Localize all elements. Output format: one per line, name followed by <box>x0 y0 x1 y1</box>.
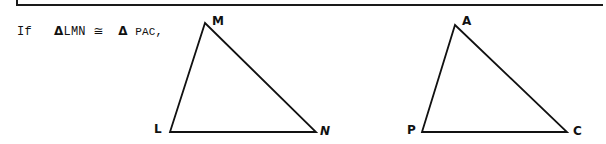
vertex-label-c: C <box>573 124 582 138</box>
triangle-pac-shape <box>422 25 567 132</box>
vertex-label-a: A <box>462 14 472 28</box>
vertex-label-n: N <box>320 124 330 138</box>
triangle-lmn-shape <box>170 23 316 132</box>
triangle-lmn: L M N <box>154 14 330 138</box>
vertex-label-m: M <box>212 14 224 28</box>
vertex-label-l: L <box>154 122 162 136</box>
triangle-pac: P A C <box>407 14 582 138</box>
triangle-figures: L M N P A C <box>0 0 606 144</box>
vertex-label-p: P <box>407 123 416 137</box>
